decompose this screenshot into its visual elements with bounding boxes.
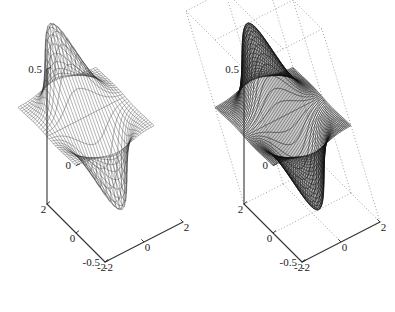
mesh-line-y [45, 88, 123, 134]
y-tick-label: -2 [104, 261, 113, 273]
mesh-line-y [67, 117, 145, 180]
mesh-line-y [49, 99, 127, 145]
y-tick-mark [338, 239, 341, 242]
grid-ceiling-line-y0 [225, 0, 283, 49]
left-plot-panel: 0.50-0.520-2-202 [0, 0, 197, 312]
y-tick-label: 2 [381, 221, 387, 233]
y-tick-label: 0 [145, 241, 151, 253]
x-tick-label: 2 [238, 203, 244, 215]
mesh-line-y [61, 111, 139, 205]
y-tick-mark [377, 219, 380, 222]
y-tick-label: 0 [342, 241, 348, 253]
x-tick-label: 0 [70, 232, 76, 244]
right-plot-svg: 0.50-0.520-2-202 [197, 0, 394, 312]
mesh-line-y [47, 97, 125, 137]
z-tick-label: 0.5 [28, 63, 42, 75]
grid-ceiling-back-left [186, 0, 264, 11]
right-plot-panel: 0.50-0.520-2-202 [197, 0, 394, 312]
y-tick-label: 2 [184, 221, 190, 233]
x-tick-label: 0 [267, 232, 273, 244]
left-plot-svg: 0.50-0.520-2-202 [0, 0, 197, 312]
x-tick-mark [76, 231, 79, 233]
grid-ceiling-back-right [264, 0, 322, 29]
left-mesh-surface [18, 23, 154, 209]
y-tick-label: -2 [301, 261, 310, 273]
z-tick-label: 0 [66, 159, 72, 171]
x-tick-mark [273, 231, 276, 233]
left-tick-labels: 0.50-0.520-2-202 [28, 63, 189, 273]
figure-canvas: 0.50-0.520-2-202 0.50-0.520-2-202 [0, 0, 395, 312]
y-tick-mark [180, 219, 183, 222]
z-tick-label: 0 [263, 159, 269, 171]
right-mesh-surface [215, 23, 351, 210]
y-tick-mark [141, 239, 144, 242]
z-tick-label: 0.5 [225, 63, 239, 75]
x-tick-label: 2 [41, 203, 47, 215]
